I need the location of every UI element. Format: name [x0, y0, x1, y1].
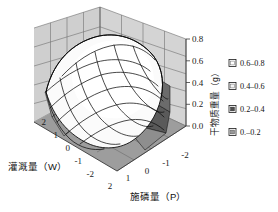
z-tick-label: 0.2 [192, 99, 203, 109]
legend-swatch-inner [231, 130, 235, 134]
legend-item[interactable]: 0.6–0.8 [229, 59, 265, 68]
z-tick-label: 0.4 [192, 78, 204, 88]
x-tick-label: 0 [145, 166, 150, 176]
x-axis-title: 施磷量（P） [130, 191, 186, 202]
z-tick-label: 0.0 [192, 121, 204, 131]
z-tick-label: 0.6 [192, 56, 204, 66]
x-tick-label: -1 [162, 158, 170, 168]
legend-label: 0.–0.2 [240, 128, 260, 137]
surface-plot-figure: 0.8 0.6 0.4 0.2 0.0 2 1 0 -1 -2 2 1 0 -1… [0, 0, 278, 212]
legend-title: 干物质重量（g） [209, 68, 220, 136]
y-tick-label: -1 [75, 156, 83, 166]
x-tick-label: 2 [108, 181, 113, 191]
legend-label: 0.6–0.8 [240, 59, 265, 68]
y-tick-label: -2 [87, 169, 95, 179]
legend-item[interactable]: 0.–0.2 [229, 128, 260, 137]
surface-dome-cap [72, 40, 154, 118]
x-tick-label: -2 [181, 150, 189, 160]
y-tick-label: 2 [42, 117, 47, 127]
legend-item[interactable]: 0.4–0.6 [229, 82, 265, 91]
legend-label: 0.4–0.6 [240, 82, 265, 91]
y-axis-title: 灌溉量（W） [8, 161, 67, 172]
legend-swatch-inner [231, 61, 235, 65]
y-tick-label: 0 [66, 143, 71, 153]
legend-swatch-inner [231, 107, 235, 111]
legend-label: 0.2–0.4 [240, 105, 265, 114]
x-tick-label: 1 [126, 173, 131, 183]
y-tick-label: 1 [54, 130, 59, 140]
legend-swatch-inner [231, 84, 235, 88]
z-tick-label: 0.8 [192, 34, 204, 44]
legend-item[interactable]: 0.2–0.4 [229, 105, 265, 114]
surface-plot-svg: 0.8 0.6 0.4 0.2 0.0 2 1 0 -1 -2 2 1 0 -1… [0, 0, 278, 212]
